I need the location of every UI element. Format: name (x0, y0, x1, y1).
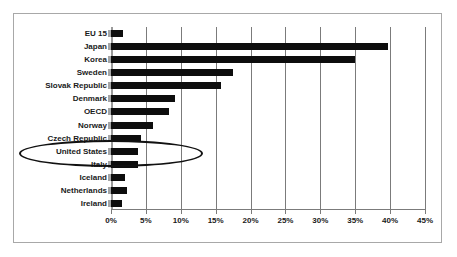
bar-row: United States (111, 148, 425, 155)
bar (111, 200, 122, 207)
category-label: Iceland (79, 173, 107, 182)
category-label: Korea (84, 55, 107, 64)
bar (111, 43, 388, 50)
bar-row: OECD (111, 108, 425, 115)
tick-mark (111, 210, 112, 214)
tick-mark (425, 210, 426, 214)
bar (111, 135, 141, 142)
category-label: Denmark (73, 94, 107, 103)
category-label: Japan (84, 42, 107, 51)
bar-row: Sweden (111, 69, 425, 76)
gridline (251, 27, 252, 210)
bar (111, 30, 123, 37)
x-tick-label: 20% (243, 216, 259, 225)
category-label: Italy (91, 160, 107, 169)
bar-row: Ireland (111, 200, 425, 207)
bar-row: Denmark (111, 95, 425, 102)
x-tick-label: 40% (382, 216, 398, 225)
bar-row: Korea (111, 56, 425, 63)
x-tick-label: 10% (173, 216, 189, 225)
bar-row: Japan (111, 43, 425, 50)
tick-mark (216, 210, 217, 214)
x-tick-label: 45% (417, 216, 433, 225)
x-tick-label: 25% (277, 216, 293, 225)
bar-row: Slovak Republic (111, 82, 425, 89)
category-label: Norway (78, 121, 107, 130)
x-tick-label: 15% (208, 216, 224, 225)
category-label: EU 15 (85, 29, 107, 38)
plot-area: EU 15JapanKoreaSwedenSlovak RepublicDenm… (111, 27, 425, 210)
x-tick-label: 30% (312, 216, 328, 225)
bar (111, 161, 138, 168)
x-tick-label: 35% (347, 216, 363, 225)
tick-mark (390, 210, 391, 214)
bar (111, 174, 125, 181)
x-tick-label: 0% (105, 216, 117, 225)
category-label: Czech Republic (47, 134, 107, 143)
gridline (181, 27, 182, 210)
tick-mark (285, 210, 286, 214)
bar-row: Netherlands (111, 187, 425, 194)
bar (111, 82, 221, 89)
category-label: OECD (84, 107, 107, 116)
bar-row: Czech Republic (111, 135, 425, 142)
gridline (390, 27, 391, 210)
bar (111, 122, 153, 129)
bar (111, 56, 355, 63)
x-axis-line (111, 209, 425, 210)
bar (111, 95, 175, 102)
bar (111, 148, 138, 155)
tick-mark (355, 210, 356, 214)
gridline (320, 27, 321, 210)
tick-mark (181, 210, 182, 214)
bar-row: Iceland (111, 174, 425, 181)
gridline (355, 27, 356, 210)
tick-mark (146, 210, 147, 214)
category-label: Netherlands (61, 186, 107, 195)
bar-row: EU 15 (111, 30, 425, 37)
chart-frame: EU 15JapanKoreaSwedenSlovak RepublicDenm… (13, 13, 442, 243)
category-label: Ireland (81, 199, 107, 208)
bar (111, 187, 127, 194)
bar (111, 69, 233, 76)
gridline (425, 27, 426, 210)
category-label: United States (56, 147, 107, 156)
gridline (285, 27, 286, 210)
gridline (146, 27, 147, 210)
y-axis-line (111, 27, 113, 210)
tick-mark (251, 210, 252, 214)
bar-row: Norway (111, 122, 425, 129)
gridline (216, 27, 217, 210)
category-label: Slovak Republic (45, 81, 107, 90)
bar-row: Italy (111, 161, 425, 168)
bar (111, 108, 169, 115)
tick-mark (320, 210, 321, 214)
category-label: Sweden (77, 68, 107, 77)
x-tick-label: 5% (140, 216, 152, 225)
